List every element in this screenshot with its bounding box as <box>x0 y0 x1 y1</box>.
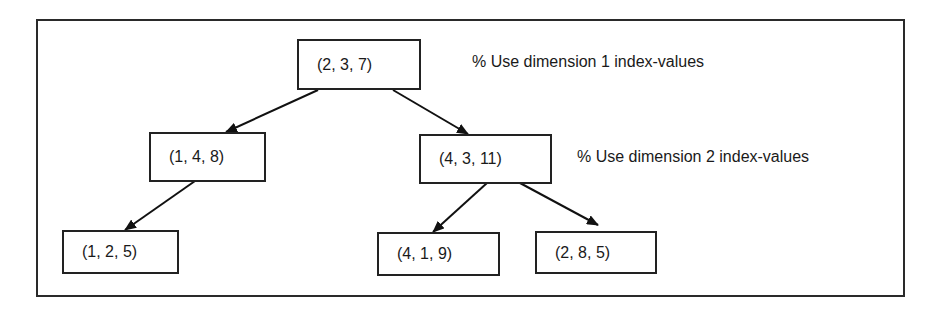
tree-node-right-left: (4, 1, 9) <box>377 232 500 276</box>
node-label: (1, 2, 5) <box>82 243 137 261</box>
node-label: (2, 3, 7) <box>317 56 372 74</box>
node-label: (4, 1, 9) <box>397 245 452 263</box>
edge-right-rightright <box>520 183 598 225</box>
tree-node-right: (4, 3, 11) <box>419 134 552 184</box>
annotation-dimension-1: % Use dimension 1 index-values <box>472 53 704 71</box>
tree-node-left: (1, 4, 8) <box>149 132 266 182</box>
node-label: (4, 3, 11) <box>439 150 502 168</box>
annotation-dimension-2: % Use dimension 2 index-values <box>577 148 809 166</box>
edge-root-right <box>393 90 468 134</box>
node-label: (1, 4, 8) <box>169 148 224 166</box>
edge-right-rightleft <box>433 183 487 232</box>
tree-node-left-left: (1, 2, 5) <box>62 230 179 274</box>
tree-node-root: (2, 3, 7) <box>297 39 421 90</box>
edge-left-leftleft <box>125 181 195 230</box>
node-label: (2, 8, 5) <box>555 244 610 262</box>
tree-node-right-right: (2, 8, 5) <box>535 231 657 274</box>
edge-root-left <box>226 90 318 132</box>
